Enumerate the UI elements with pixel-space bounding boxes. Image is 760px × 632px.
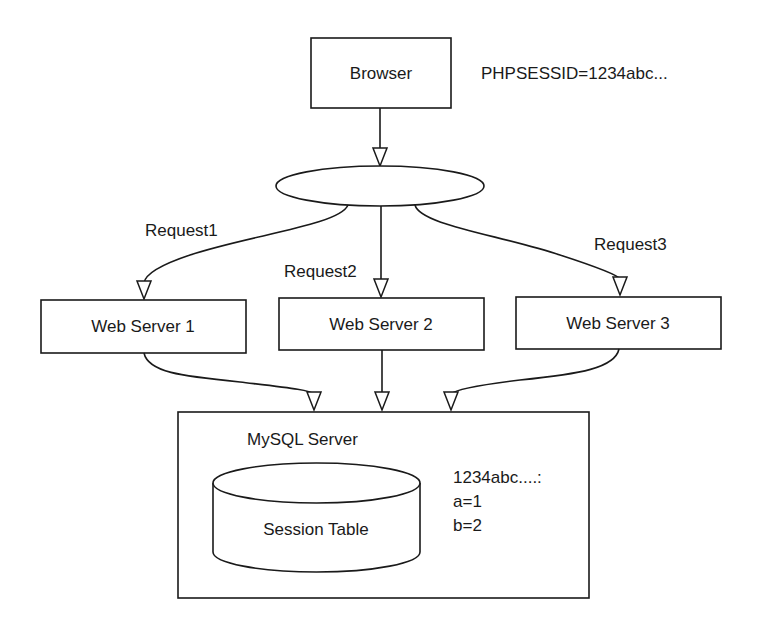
server3-to-mysql-arrow bbox=[444, 349, 619, 410]
session-value-a: a=1 bbox=[453, 492, 482, 511]
web-server-2-label: Web Server 2 bbox=[329, 315, 433, 334]
session-table-label: Session Table bbox=[263, 520, 369, 539]
browser-label: Browser bbox=[350, 64, 413, 83]
load-balancer-ellipse bbox=[276, 166, 484, 206]
request1-arrow bbox=[137, 205, 348, 299]
browser-to-balancer-arrow bbox=[373, 108, 387, 166]
mysql-server-label: MySQL Server bbox=[247, 430, 358, 449]
arrowhead-icon bbox=[375, 392, 389, 410]
web-server-1: Web Server 1 bbox=[41, 300, 246, 353]
arrowhead-icon bbox=[137, 281, 151, 299]
server2-to-mysql-arrow bbox=[375, 350, 389, 410]
session-key-label: 1234abc....: bbox=[453, 468, 542, 487]
session-value-b: b=2 bbox=[453, 516, 482, 535]
arrowhead-icon bbox=[374, 279, 388, 297]
mysql-server-node: MySQL Server Session Table 1234abc....: … bbox=[178, 412, 589, 598]
arrowhead-icon bbox=[307, 392, 321, 410]
session-table-cylinder: Session Table bbox=[213, 463, 420, 572]
web-server-3: Web Server 3 bbox=[516, 297, 721, 349]
request1-label: Request1 bbox=[145, 221, 218, 240]
browser-node: Browser bbox=[311, 38, 451, 108]
request3-label: Request3 bbox=[594, 235, 667, 254]
web-server-1-label: Web Server 1 bbox=[91, 317, 195, 336]
request2-label: Request2 bbox=[284, 262, 357, 281]
request2-arrow bbox=[374, 206, 388, 297]
web-server-3-label: Web Server 3 bbox=[566, 314, 670, 333]
arrowhead-icon bbox=[444, 392, 458, 410]
server1-to-mysql-arrow bbox=[144, 353, 321, 410]
cookie-label: PHPSESSID=1234abc... bbox=[481, 64, 668, 83]
web-server-2: Web Server 2 bbox=[279, 298, 484, 350]
session-architecture-diagram: Browser PHPSESSID=1234abc... Request1 Re… bbox=[0, 0, 760, 632]
arrowhead-icon bbox=[373, 148, 387, 166]
arrowhead-icon bbox=[613, 277, 627, 295]
